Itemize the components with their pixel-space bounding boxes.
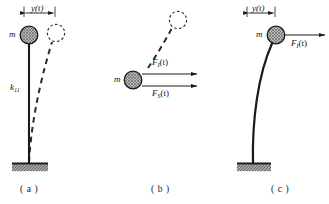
panel-a-mass-label: m: [9, 30, 16, 39]
panel-b-spring-force-label: FS(t): [152, 89, 169, 98]
panel-b-inertia-force-arg: (t): [160, 57, 169, 67]
panel-a-caption: ( a ): [20, 184, 38, 194]
panel-c-mass-label: m: [256, 30, 263, 39]
panel-a-displacement-label: y(t): [31, 4, 44, 13]
panel-b-spring-force-subscript: S: [158, 92, 161, 99]
panel-a-mass-icon: [20, 26, 38, 44]
panel-b-inertia-force-subscript: I: [158, 61, 160, 68]
panel-c-group: [237, 7, 325, 172]
panel-c-fixed-support: [237, 164, 271, 172]
panel-b-spring-force-arg: (t): [161, 88, 170, 98]
panel-c-applied-force-arg: (t): [299, 38, 308, 48]
panel-b-group: [124, 11, 197, 88]
panel-c-applied-force-label: FI(t): [291, 39, 307, 48]
panel-b-caption: ( b ): [151, 184, 170, 194]
panel-c-displacement-label: y(t): [252, 4, 265, 13]
panel-c-mass-icon: [267, 26, 285, 44]
panel-a-stiffness-label: k11: [10, 83, 20, 92]
panel-c-column: [253, 44, 272, 164]
panel-a-stiffness-subscript: 11: [14, 86, 20, 93]
panel-b-mass-icon: [124, 71, 142, 89]
panel-a-fixed-support: [12, 164, 48, 172]
panel-c-caption: ( c ): [271, 184, 289, 194]
panel-a-deformed-shape: [29, 42, 52, 162]
panel-c-applied-force-subscript: I: [297, 42, 299, 49]
panel-b-mass-label: m: [114, 75, 121, 84]
mechanics-figure-canvas: [0, 0, 329, 204]
panel-b-inertia-force-label: FI(t): [152, 58, 168, 67]
panel-a-ghost-mass-icon: [47, 24, 64, 41]
figure-container: y(t) m k11 ( a ) m FI(t) FS(t) ( b ) y(t…: [0, 0, 329, 204]
panel-b-ghost-mass-icon: [169, 11, 186, 28]
